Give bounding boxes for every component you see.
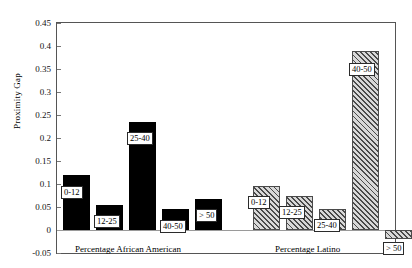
- y-tick-label: 0.35: [5, 65, 51, 74]
- bar-latino-40-50: [352, 51, 379, 230]
- y-tick-label: 0.45: [5, 19, 51, 28]
- plot-area: 0.450.40.350.30.250.20.150.10.050-0.05 0…: [56, 22, 396, 254]
- bar-category-label: > 50: [383, 242, 404, 255]
- group-caption-latino: Percentage Latino: [275, 244, 340, 254]
- y-tick-mark: [57, 161, 61, 162]
- y-tick-mark: [57, 207, 61, 208]
- bar-category-label: 12-25: [279, 206, 305, 219]
- y-tick-mark: [57, 23, 61, 24]
- y-tick-mark: [57, 92, 61, 93]
- group-caption-african-american: Percentage African American: [75, 244, 181, 254]
- bar-latino--50: [385, 230, 412, 239]
- zero-baseline: [57, 230, 395, 231]
- bar-category-label: 12-25: [94, 215, 120, 228]
- bar-category-label: 25-40: [127, 132, 153, 145]
- y-tick-label: 0.05: [5, 203, 51, 212]
- figure-caption: [0, 258, 410, 268]
- y-tick-mark: [57, 138, 61, 139]
- y-tick-mark: [57, 46, 61, 47]
- y-tick-label: 0: [5, 226, 51, 235]
- y-tick-label: 0.4: [5, 42, 51, 51]
- y-tick-label: 0.1: [5, 180, 51, 189]
- y-tick-label: 0.15: [5, 157, 51, 166]
- y-tick-mark: [57, 253, 61, 254]
- bar-category-label: > 50: [196, 209, 217, 222]
- y-tick-mark: [57, 115, 61, 116]
- bar-african-american-0-12: [63, 175, 90, 230]
- y-tick-label: 0.2: [5, 134, 51, 143]
- y-tick-label: 0.25: [5, 111, 51, 120]
- bar-category-label: 0-12: [248, 196, 270, 209]
- bar-category-label: 40-50: [349, 63, 375, 76]
- bar-category-label: 25-40: [314, 219, 340, 232]
- y-tick-label: 0.3: [5, 88, 51, 97]
- bar-category-label: 40-50: [160, 220, 186, 233]
- bar-category-label: 0-12: [61, 186, 83, 199]
- y-tick-label: -0.05: [5, 249, 51, 258]
- y-tick-mark: [57, 69, 61, 70]
